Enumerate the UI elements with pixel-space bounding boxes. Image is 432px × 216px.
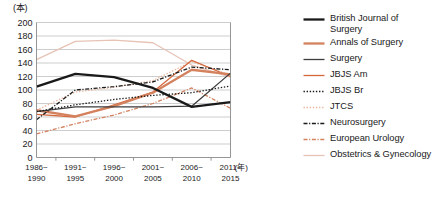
chart-legend: British Journal of SurgeryAnnals of Surg… xyxy=(303,13,432,165)
legend-swatch-line-icon xyxy=(303,70,325,81)
legend-item[interactable]: European Urology xyxy=(303,133,432,146)
gridlines-group xyxy=(37,23,231,158)
y-tick-label: 20 xyxy=(22,139,32,149)
legend-item[interactable]: JTCS xyxy=(303,101,432,114)
y-tick-label: 40 xyxy=(22,126,32,136)
y-tick-label: 160 xyxy=(17,45,32,55)
legend-item[interactable]: Surgery xyxy=(303,53,432,66)
x-tick-label-top: 2001~ xyxy=(142,163,165,172)
x-tick-label-bottom: 2005 xyxy=(144,174,162,183)
series-line-neurosurgery xyxy=(37,67,231,120)
x-tick-label-top: 2006~ xyxy=(180,163,203,172)
legend-item-label: Surgery xyxy=(330,53,362,64)
x-tick-label-bottom: 2010 xyxy=(183,174,201,183)
legend-item[interactable]: Obstetrics & Gynecology xyxy=(303,149,432,162)
x-tick-labels-group: 1986~19901991~19951996~20002001~20052006… xyxy=(25,163,242,183)
chart-root: (本) 020406080100120140160180200 1986~199… xyxy=(0,0,432,216)
x-axis-unit-label: (年) xyxy=(235,162,249,172)
legend-item[interactable]: JBJS Br xyxy=(303,85,432,98)
series-lines-group xyxy=(37,40,231,134)
x-tick-label-top: 1991~ xyxy=(64,163,87,172)
legend-item-label: JBJS Br xyxy=(330,85,363,96)
legend-item-label: JTCS xyxy=(330,101,353,112)
legend-swatch-line-icon xyxy=(303,54,325,65)
x-axis-unit-label-group: (年) xyxy=(235,162,249,172)
legend-item-label: Neurosurgery xyxy=(330,117,386,128)
legend-swatch-line-icon xyxy=(303,86,325,97)
legend-item-label: Annals of Surgery xyxy=(330,37,403,48)
legend-item-label: British Journal of Surgery xyxy=(330,13,432,34)
y-tick-label: 180 xyxy=(17,31,32,41)
legend-item-label: Obstetrics & Gynecology xyxy=(330,149,431,160)
x-tick-label-bottom: 2015 xyxy=(222,174,240,183)
x-tick-label-bottom: 1995 xyxy=(66,174,84,183)
legend-swatch-line-icon xyxy=(303,118,325,129)
legend-item[interactable]: British Journal of Surgery xyxy=(303,13,432,34)
legend-swatch-line-icon xyxy=(303,14,325,25)
series-line-european-urology xyxy=(37,88,231,134)
x-tick-marks-group xyxy=(56,158,211,161)
legend-swatch-line-icon xyxy=(303,102,325,113)
y-tick-label: 200 xyxy=(17,18,32,28)
y-tick-label: 120 xyxy=(17,72,32,82)
y-tick-label: 60 xyxy=(22,112,32,122)
series-line-jtcs xyxy=(37,62,231,111)
legend-swatch-line-icon xyxy=(303,38,325,49)
legend-item[interactable]: Annals of Surgery xyxy=(303,37,432,50)
y-tick-label: 100 xyxy=(17,85,32,95)
bottom-margin xyxy=(0,206,432,216)
legend-swatch-line-icon xyxy=(303,150,325,161)
y-tick-labels-group: 020406080100120140160180200 xyxy=(17,18,32,163)
x-tick-label-top: 1996~ xyxy=(103,163,126,172)
x-tick-label-bottom: 2000 xyxy=(105,174,123,183)
legend-item[interactable]: JBJS Am xyxy=(303,69,432,82)
legend-item-label: JBJS Am xyxy=(330,69,367,80)
y-tick-label: 0 xyxy=(27,153,32,163)
x-tick-label-bottom: 1990 xyxy=(28,174,46,183)
x-tick-label-top: 1986~ xyxy=(25,163,48,172)
legend-swatch-line-icon xyxy=(303,134,325,145)
y-tick-label: 140 xyxy=(17,58,32,68)
legend-item-label: European Urology xyxy=(330,133,404,144)
legend-item[interactable]: Neurosurgery xyxy=(303,117,432,130)
y-tick-label: 80 xyxy=(22,99,32,109)
